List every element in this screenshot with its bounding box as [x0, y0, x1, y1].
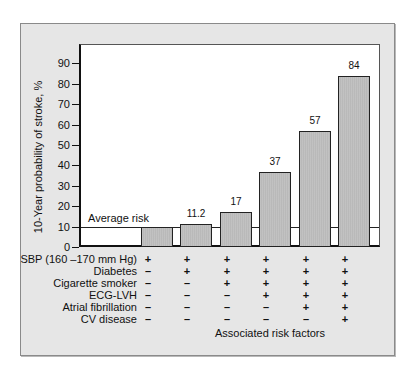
plus-sign: + — [338, 277, 352, 289]
plus-sign: + — [299, 253, 313, 265]
plus-sign: + — [220, 253, 234, 265]
bar-value-label: 84 — [334, 60, 374, 71]
risk-factor-label: Diabetes — [94, 265, 137, 277]
plus-sign: + — [220, 265, 234, 277]
x-axis-label: Associated risk factors — [170, 327, 370, 339]
bar — [259, 172, 291, 247]
y-tick-label: 60 — [44, 119, 70, 131]
bar-value-label: 17 — [216, 196, 256, 207]
minus-sign: – — [141, 289, 155, 301]
minus-sign: – — [141, 277, 155, 289]
bar — [180, 224, 212, 247]
plus-sign: + — [299, 289, 313, 301]
bar-value-label: 11.2 — [176, 208, 216, 219]
minus-sign: – — [141, 301, 155, 313]
average-risk-label: Average risk — [88, 212, 149, 224]
y-tick — [72, 63, 79, 64]
risk-factor-label: ECG-LVH — [89, 289, 137, 301]
minus-sign: – — [180, 277, 194, 289]
y-tick — [72, 227, 79, 228]
bar — [338, 76, 370, 247]
plus-sign: + — [141, 253, 155, 265]
minus-sign: – — [180, 313, 194, 325]
risk-factor-label: Atrial fibrillation — [62, 301, 137, 313]
minus-sign: – — [141, 313, 155, 325]
y-axis-label: 10-Year probability of stroke, % — [32, 81, 44, 233]
minus-sign: – — [180, 289, 194, 301]
minus-sign: – — [259, 301, 273, 313]
y-tick — [72, 206, 79, 207]
plus-sign: + — [338, 253, 352, 265]
plus-sign: + — [338, 313, 352, 325]
y-tick — [72, 145, 79, 146]
plus-sign: + — [338, 265, 352, 277]
bar-value-label: 57 — [295, 115, 335, 126]
minus-sign: – — [220, 289, 234, 301]
y-tick-label: 30 — [44, 180, 70, 192]
y-tick — [72, 247, 79, 248]
minus-sign: – — [299, 313, 313, 325]
bar — [141, 227, 173, 247]
y-tick-label: 80 — [44, 78, 70, 90]
minus-sign: – — [220, 301, 234, 313]
y-tick-label: 90 — [44, 57, 70, 69]
plus-sign: + — [220, 277, 234, 289]
y-tick — [72, 104, 79, 105]
y-tick-label: 50 — [44, 139, 70, 151]
plus-sign: + — [338, 301, 352, 313]
y-tick-label: 10 — [44, 221, 70, 233]
y-tick-label: 40 — [44, 159, 70, 171]
bar — [220, 212, 252, 247]
risk-factor-label: CV disease — [81, 313, 137, 325]
plus-sign: + — [259, 289, 273, 301]
plus-sign: + — [259, 277, 273, 289]
risk-factor-label: SBP (160 –170 mm Hg) — [20, 253, 137, 265]
bar — [299, 131, 331, 247]
y-tick — [72, 125, 79, 126]
minus-sign: – — [220, 313, 234, 325]
plus-sign: + — [299, 265, 313, 277]
plus-sign: + — [338, 289, 352, 301]
y-tick-label: 70 — [44, 98, 70, 110]
plus-sign: + — [299, 277, 313, 289]
plus-sign: + — [180, 265, 194, 277]
plus-sign: + — [299, 301, 313, 313]
y-tick — [72, 84, 79, 85]
y-tick-label: 0 — [44, 241, 70, 253]
minus-sign: – — [259, 313, 273, 325]
plus-sign: + — [259, 253, 273, 265]
minus-sign: – — [180, 301, 194, 313]
risk-factor-label: Cigarette smoker — [53, 277, 137, 289]
y-tick — [72, 165, 79, 166]
minus-sign: – — [141, 265, 155, 277]
plus-sign: + — [180, 253, 194, 265]
y-tick — [72, 186, 79, 187]
bar-value-label: 37 — [255, 156, 295, 167]
y-tick-label: 20 — [44, 200, 70, 212]
plus-sign: + — [259, 265, 273, 277]
